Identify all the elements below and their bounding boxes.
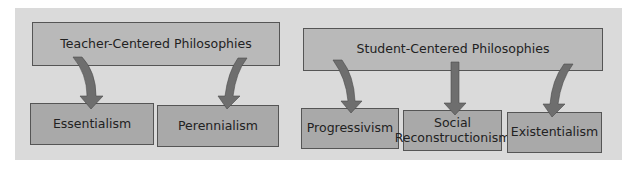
arrow-teacher-essentialism-icon <box>73 57 103 109</box>
arrow-student-existentialism-icon <box>543 64 573 117</box>
arrow-student-progressivism-icon <box>333 60 362 113</box>
arrow-teacher-perennialism-icon <box>218 58 247 109</box>
arrows-layer <box>0 0 638 175</box>
arrow-student-social-icon <box>444 62 466 115</box>
